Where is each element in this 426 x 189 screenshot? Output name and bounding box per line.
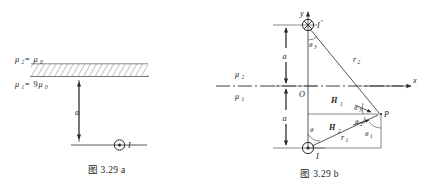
- figure-b: x y O μ 2 μ 1: [213, 0, 426, 189]
- svg-text:1: 1: [345, 137, 348, 143]
- distance-a-upper-label: a: [283, 52, 287, 61]
- svg-text:θ: θ: [365, 130, 369, 138]
- mu-upper-label-b: μ 2: [234, 70, 244, 80]
- current-label-a: I: [127, 141, 132, 150]
- theta1-label: θ 1: [365, 130, 373, 139]
- svg-text:0: 0: [45, 84, 48, 90]
- distance-a-dimension: a: [75, 80, 79, 142]
- svg-text:=: =: [25, 80, 30, 89]
- svg-text:3: 3: [359, 107, 362, 113]
- svg-text:μ: μ: [38, 80, 43, 89]
- svg-text:μ: μ: [33, 55, 38, 64]
- theta3-at-P-label: θ 3: [354, 104, 362, 113]
- svg-text:3: 3: [314, 44, 317, 50]
- svg-text:9: 9: [34, 80, 38, 89]
- svg-text:2: 2: [357, 59, 360, 65]
- svg-text:θ: θ: [354, 104, 358, 112]
- H1-vector: H 1: [330, 96, 371, 112]
- svg-text:1: 1: [241, 96, 244, 102]
- theta2-label: θ 2: [355, 118, 363, 127]
- figure-a-drawing: μ 2 = μ 0 μ 1 = 9 μ 0 a: [0, 0, 213, 189]
- svg-text:2: 2: [21, 59, 24, 65]
- svg-text:θ: θ: [309, 41, 313, 49]
- theta3-top-label: θ 3: [309, 41, 317, 50]
- distance-a-lower-dimension: a: [281, 89, 292, 145]
- svg-text:H: H: [328, 123, 336, 132]
- svg-text:μ: μ: [234, 92, 239, 101]
- svg-text:2: 2: [241, 74, 244, 80]
- svg-text:0: 0: [40, 59, 43, 65]
- theta2-arc: [364, 117, 365, 124]
- svg-text:2: 2: [338, 128, 341, 134]
- svg-text:μ: μ: [14, 80, 19, 89]
- figure-a: μ 2 = μ 0 μ 1 = 9 μ 0 a: [0, 0, 213, 189]
- image-current-label: I ′: [316, 19, 323, 30]
- figure-page: μ 2 = μ 0 μ 1 = 9 μ 0 a: [0, 0, 426, 189]
- svg-text:r: r: [341, 133, 345, 142]
- svg-text:′: ′: [321, 19, 323, 28]
- figure-a-caption: 图 3.29 a: [0, 162, 213, 176]
- r2-line: [310, 29, 379, 113]
- distance-a-upper-dimension: a: [281, 28, 292, 83]
- svg-text:H: H: [330, 96, 338, 105]
- r2-label: r 2: [353, 55, 360, 65]
- source-current-label: I: [315, 152, 320, 161]
- svg-text:1: 1: [340, 101, 343, 107]
- distance-a-lower-label: a: [283, 114, 287, 123]
- svg-text:r: r: [353, 55, 357, 64]
- r1-label: r 1: [341, 133, 348, 143]
- x-axis-label: x: [412, 76, 417, 85]
- svg-text:=: =: [25, 55, 30, 64]
- svg-text:μ: μ: [234, 70, 239, 79]
- svg-text:2: 2: [360, 121, 363, 127]
- point-P-marker: [380, 113, 382, 115]
- theta3-top-arc: [308, 37, 317, 40]
- theta-arc: [308, 134, 320, 141]
- distance-a-label: a: [75, 108, 79, 117]
- svg-text:1: 1: [21, 84, 24, 90]
- mu-lower-label: μ 1 = 9 μ 0: [14, 80, 48, 90]
- mu-lower-label-b: μ 1: [234, 92, 244, 102]
- theta-label: θ: [310, 126, 314, 134]
- y-axis-label: y: [299, 9, 304, 18]
- svg-text:μ: μ: [14, 55, 19, 64]
- hatched-medium-region: [31, 64, 148, 76]
- figure-b-drawing: x y O μ 2 μ 1: [213, 0, 426, 189]
- H2-vector: H 2: [328, 120, 369, 134]
- theta1-arc: [369, 122, 381, 128]
- svg-text:1: 1: [370, 133, 373, 139]
- svg-text:θ: θ: [355, 118, 359, 126]
- point-P-label: P: [383, 110, 389, 119]
- figure-b-caption: 图 3.29 b: [213, 166, 426, 180]
- origin-label: O: [299, 90, 305, 99]
